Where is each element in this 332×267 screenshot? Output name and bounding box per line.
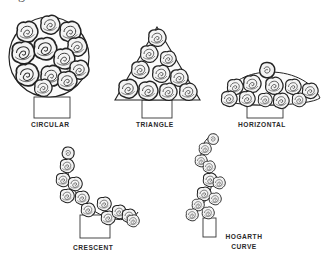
hogarth-label-line1: HOGARTH: [222, 233, 266, 241]
horizontal-label: HORIZONTAL: [238, 121, 286, 129]
crescent-arrangement: [56, 147, 139, 238]
hogarth-label-line2: CURVE: [222, 243, 266, 251]
horizontal-arrangement: [221, 62, 320, 118]
triangle-label: TRIANGLE: [136, 121, 174, 129]
circular-arrangement: [9, 15, 89, 118]
crescent-label: CRESCENT: [73, 244, 113, 252]
hogarth-container: [203, 218, 216, 237]
triangle-arrangement: [115, 27, 200, 118]
hogarth-arrangement: [186, 134, 225, 237]
circular-container: [34, 97, 70, 118]
triangle-container: [142, 100, 172, 118]
circular-label: CIRCULAR: [31, 121, 69, 129]
arrangement-diagram: [0, 0, 332, 267]
